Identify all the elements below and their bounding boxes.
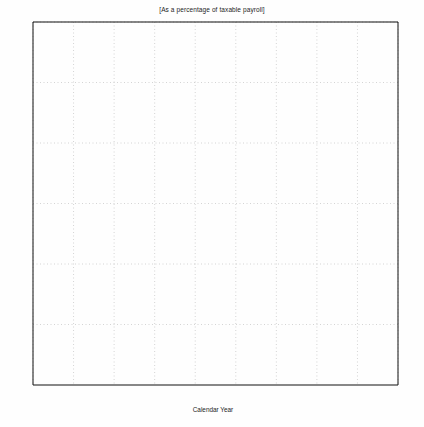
chart-container: [As a percentage of taxable payroll] Cal… bbox=[0, 0, 424, 427]
x-axis-title: Calendar Year bbox=[193, 406, 234, 413]
grid-lines bbox=[33, 22, 398, 385]
chart-plot-area: Calendar Year bbox=[0, 0, 424, 427]
